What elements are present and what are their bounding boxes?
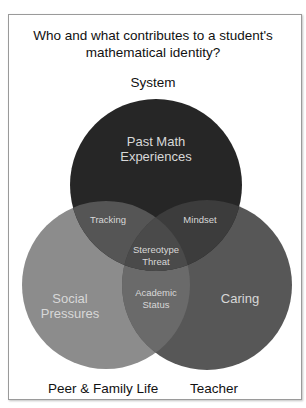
region-text: Past Math xyxy=(106,134,206,149)
region-text: Tracking xyxy=(78,214,138,226)
region-text: Experiences xyxy=(106,149,206,164)
venn-diagram xyxy=(0,0,306,408)
region-tracking: Tracking xyxy=(78,214,138,226)
region-text: Status xyxy=(126,299,186,311)
region-past-math: Past Math Experiences xyxy=(106,134,206,164)
region-text: Academic xyxy=(126,287,186,299)
region-mindset: Mindset xyxy=(170,214,230,226)
region-text: Pressures xyxy=(40,306,100,321)
region-text: Mindset xyxy=(170,214,230,226)
region-stereotype-threat: Stereotype Threat xyxy=(126,244,186,268)
region-text: Caring xyxy=(210,291,270,306)
region-academic-status: Academic Status xyxy=(126,287,186,311)
region-text: Stereotype xyxy=(126,244,186,256)
region-social-pressures: Social Pressures xyxy=(40,291,100,321)
region-text: Threat xyxy=(126,256,186,268)
region-text: Social xyxy=(40,291,100,306)
set-label-peer-family: Peer & Family Life xyxy=(48,381,158,396)
set-label-teacher: Teacher xyxy=(190,381,238,396)
region-caring: Caring xyxy=(210,291,270,306)
